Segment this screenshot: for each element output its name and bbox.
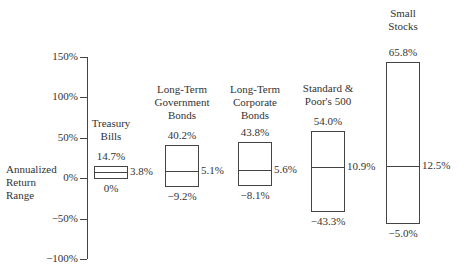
average-line bbox=[95, 172, 127, 173]
average-value-label: 10.9% bbox=[347, 161, 375, 172]
y-tick-label: 0% bbox=[63, 172, 78, 183]
y-tick bbox=[80, 97, 87, 98]
category-label: SmallStocks bbox=[363, 7, 443, 33]
low-value-label: −5.0% bbox=[373, 228, 433, 239]
average-line bbox=[387, 166, 419, 167]
y-tick-label: −50% bbox=[52, 213, 78, 224]
average-line bbox=[312, 167, 344, 168]
y-tick-label: 150% bbox=[52, 51, 78, 62]
y-tick bbox=[80, 57, 87, 58]
y-tick-label: 100% bbox=[52, 91, 78, 102]
low-value-label: −9.2% bbox=[152, 191, 212, 202]
y-tick bbox=[80, 259, 87, 260]
y-tick bbox=[80, 219, 87, 220]
low-value-label: −43.3% bbox=[298, 216, 358, 227]
range-box bbox=[238, 142, 272, 186]
high-value-label: 14.7% bbox=[81, 151, 141, 162]
category-label: TreasuryBills bbox=[71, 117, 151, 143]
category-label: Long-TermCorporateBonds bbox=[215, 83, 295, 122]
high-value-label: 54.0% bbox=[298, 116, 358, 127]
average-value-label: 12.5% bbox=[422, 160, 450, 171]
range-box bbox=[311, 131, 345, 212]
high-value-label: 43.8% bbox=[225, 127, 285, 138]
y-axis-label: Annualized Return Range bbox=[6, 163, 57, 202]
range-box bbox=[386, 62, 420, 224]
average-line bbox=[166, 171, 198, 172]
category-label: Standard &Poor's 500 bbox=[288, 82, 368, 108]
high-value-label: 65.8% bbox=[373, 47, 433, 58]
y-axis-label-line: Return bbox=[6, 176, 57, 189]
y-tick-label: −100% bbox=[46, 253, 78, 264]
low-value-label: 0% bbox=[81, 183, 141, 194]
category-label: Long-TermGovernmentBonds bbox=[142, 83, 222, 122]
range-box bbox=[94, 166, 128, 179]
average-value-label: 5.1% bbox=[201, 165, 224, 176]
y-axis-label-line: Annualized bbox=[6, 163, 57, 176]
range-box bbox=[165, 145, 199, 187]
y-axis-label-line: Range bbox=[6, 189, 57, 202]
average-value-label: 3.8% bbox=[130, 166, 153, 177]
low-value-label: −8.1% bbox=[225, 190, 285, 201]
average-value-label: 5.6% bbox=[274, 164, 297, 175]
y-tick bbox=[80, 178, 87, 179]
high-value-label: 40.2% bbox=[152, 130, 212, 141]
average-line bbox=[239, 170, 271, 171]
